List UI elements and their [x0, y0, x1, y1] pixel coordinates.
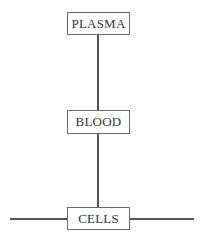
- node-blood: BLOOD: [67, 110, 130, 134]
- node-blood-label: BLOOD: [76, 114, 122, 130]
- connector-blood-cells: [97, 134, 99, 207]
- connector-plasma-blood: [97, 35, 99, 110]
- node-cells: CELLS: [67, 207, 130, 230]
- node-cells-label: CELLS: [78, 211, 119, 227]
- node-plasma: PLASMA: [67, 12, 130, 35]
- cells-line-left: [10, 218, 67, 220]
- node-plasma-label: PLASMA: [72, 16, 126, 32]
- cells-line-right: [130, 218, 194, 220]
